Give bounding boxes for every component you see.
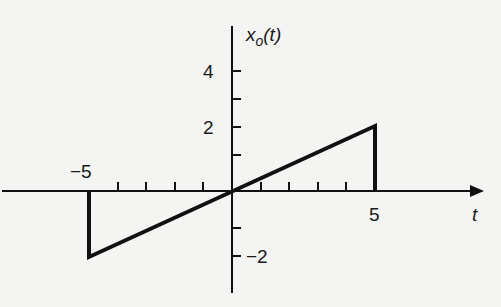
t-axis-label: t — [472, 204, 478, 225]
t-axis-arrowhead — [470, 185, 484, 197]
tick-label-neg5: −5 — [70, 161, 92, 182]
y-axis-label: xo(t) — [245, 24, 281, 49]
tick-label-4: 4 — [203, 61, 214, 82]
tick-label-2: 2 — [203, 117, 214, 138]
tick-label-neg2: −2 — [246, 246, 268, 267]
tick-label-5: 5 — [369, 204, 380, 225]
signal-plot: xo(t) t −5 5 4 2 −2 — [0, 0, 501, 307]
y-ticks — [232, 71, 241, 256]
